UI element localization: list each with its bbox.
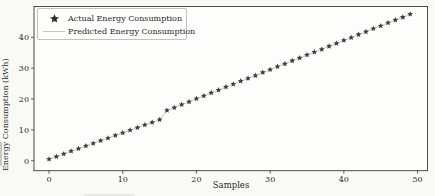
y-tick-label: 40 [19,33,29,42]
scan-artifact [84,194,134,196]
legend-star-path [50,14,59,22]
x-axis-label: Samples [34,180,428,190]
legend: Actual Energy Consumption Predicted Ener… [37,8,187,40]
legend-label-actual: Actual Energy Consumption [68,14,182,23]
y-axis-label: Energy Consumption (kWh) [1,6,10,171]
star-marker-icon [40,13,68,24]
y-tick-label: 20 [19,95,29,104]
y-tick-label: 30 [19,64,29,73]
y-tick-label: 0 [24,157,29,166]
legend-entry-predicted: Predicted Energy Consumption [40,27,181,36]
y-tick-label: 10 [19,126,29,135]
legend-entry-actual: Actual Energy Consumption [40,13,181,24]
line-marker-icon [40,31,68,32]
scan-artifact [0,142,2,166]
energy-consumption-figure: 01020304050010203040 Actual Energy Consu… [0,0,435,196]
legend-label-predicted: Predicted Energy Consumption [68,27,195,36]
